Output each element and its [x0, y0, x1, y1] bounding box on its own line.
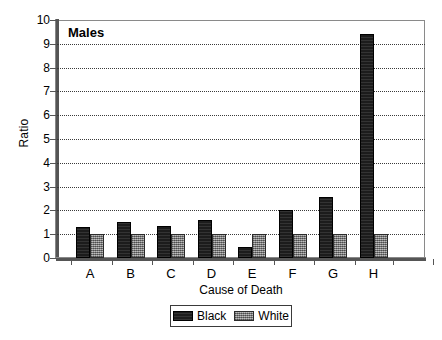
y-axis-tick [50, 20, 56, 21]
x-axis-tick-label-e: E [232, 266, 272, 281]
y-axis-tick-label: 10 [0, 14, 50, 26]
y-axis-tick-label: 3 [0, 181, 50, 193]
legend-swatch-black [173, 311, 193, 321]
x-axis-tick-label-c: C [151, 266, 191, 281]
y-axis-tick [50, 44, 56, 45]
y-axis-tick-value: 6 [4, 109, 50, 121]
y-axis-tick-value: 8 [4, 62, 50, 74]
bar-black-h [360, 34, 374, 258]
y-axis-tick-value: 4 [4, 157, 50, 169]
bar-black-c [157, 226, 171, 258]
bar-black-e [238, 247, 252, 258]
y-axis-tick-value: 3 [4, 181, 50, 193]
x-axis-tick-label-g: G [313, 266, 353, 281]
x-axis-tick-label-h: H [354, 266, 394, 281]
y-axis-tick-label: 2 [0, 204, 50, 216]
x-axis-tick [314, 259, 315, 265]
y-axis-tick [50, 210, 56, 211]
bar-black-g [319, 197, 333, 258]
x-axis-tick [355, 259, 356, 265]
bar-white-e [252, 234, 266, 258]
x-axis-tick-label-a: A [70, 266, 110, 281]
y-axis-tick [50, 258, 56, 259]
legend-label-white: White [258, 310, 289, 322]
x-axis-tick [433, 259, 434, 265]
y-axis-tick-label: 1 [0, 228, 50, 240]
legend-entry-black: Black [173, 310, 226, 322]
y-axis-tick [50, 68, 56, 69]
bar-black-b [117, 222, 131, 258]
x-axis-tick-label-b: B [111, 266, 151, 281]
bar-white-g [333, 234, 347, 258]
legend-entry-white: White [234, 310, 289, 322]
x-axis-tick [71, 259, 72, 265]
y-axis-tick-label: 4 [0, 157, 50, 169]
y-axis-tick-value: 0 [4, 252, 50, 264]
x-axis-title: Cause of Death [57, 283, 425, 297]
y-axis-tick-value: 10 [4, 14, 50, 26]
y-axis-tick [50, 163, 56, 164]
x-axis-tick [193, 259, 194, 265]
bar-black-f [279, 210, 293, 258]
y-axis-tick [50, 91, 56, 92]
bar-chart: Ratio 012345678910 Males ABCDEFGH Cause … [0, 0, 442, 340]
bar-white-c [171, 234, 185, 258]
bar-white-d [212, 234, 226, 258]
y-axis-tick-value: 5 [4, 133, 50, 145]
bar-white-a [90, 234, 104, 258]
y-axis-tick-label: 0 [0, 252, 50, 264]
y-axis-tick-label: 6 [0, 109, 50, 121]
x-axis-tick [112, 259, 113, 265]
x-axis-tick [152, 259, 153, 265]
y-axis-tick [50, 187, 56, 188]
x-axis-tick [233, 259, 234, 265]
x-axis-tick [274, 259, 275, 265]
y-axis-tick-value: 9 [4, 38, 50, 50]
y-axis-tick-value: 7 [4, 85, 50, 97]
bar-white-h [374, 234, 388, 258]
y-axis-tick-label: 8 [0, 62, 50, 74]
bar-black-d [198, 220, 212, 258]
bar-black-a [76, 227, 90, 258]
y-axis-tick [50, 115, 56, 116]
legend-swatch-white [234, 311, 254, 321]
y-axis-tick-label: 7 [0, 85, 50, 97]
bar-white-b [131, 234, 145, 258]
x-axis-tick-label-d: D [192, 266, 232, 281]
y-axis-tick-label: 5 [0, 133, 50, 145]
y-axis-tick-value: 2 [4, 204, 50, 216]
legend-label-black: Black [197, 310, 226, 322]
y-axis-tick-label: 9 [0, 38, 50, 50]
y-axis-tick [50, 234, 56, 235]
bar-white-f [293, 234, 307, 258]
x-axis-tick [393, 259, 394, 265]
x-axis-tick-label-f: F [273, 266, 313, 281]
y-axis-tick [50, 139, 56, 140]
legend: Black White [170, 305, 292, 327]
y-axis-tick-value: 1 [4, 228, 50, 240]
bars-layer [57, 20, 425, 258]
